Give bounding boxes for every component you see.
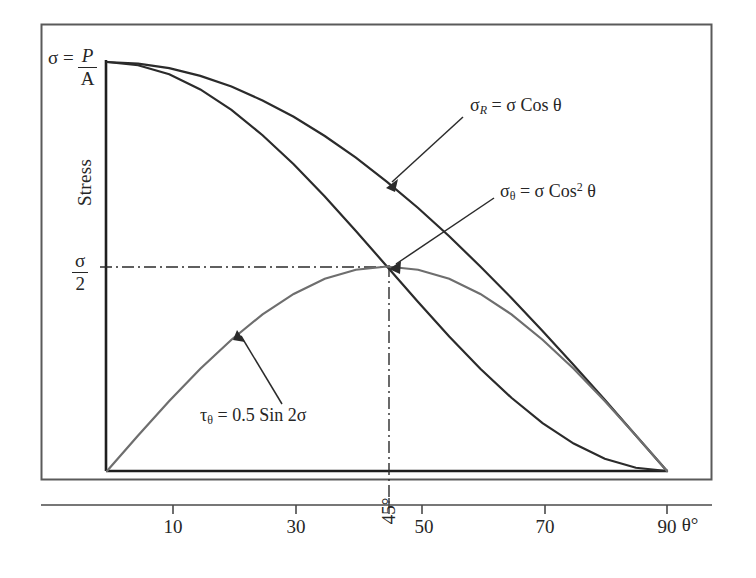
- annotation-superscript: 2: [577, 180, 583, 194]
- x-axis-title: θ°: [682, 514, 699, 536]
- p-over-a-fraction: P A: [78, 46, 98, 89]
- annotation-theta: θ: [587, 181, 596, 201]
- x-tick-label-70: 70: [536, 516, 555, 538]
- annotation-subscript: θ: [510, 189, 516, 203]
- figure-container: σ = P A σ 2 Stress σR = σ Cos θ σθ = σ C…: [0, 0, 756, 578]
- curve-tau-theta: [107, 267, 667, 472]
- annotation-symbol: σ: [470, 95, 480, 115]
- stress-vs-angle-plot: [0, 0, 756, 578]
- annotation-tau-theta: τθ = 0.5 Sin 2σ: [200, 406, 306, 426]
- fraction-denominator: A: [78, 69, 98, 89]
- x-tick-label-90: 90: [658, 516, 677, 538]
- equals-symbol: =: [63, 47, 74, 68]
- annotation-expression: = σ Cos: [520, 181, 577, 201]
- x-ruler-ticks: [173, 498, 667, 514]
- fraction-numerator: P: [79, 46, 97, 66]
- y-axis-title: Stress: [75, 93, 94, 273]
- y-axis-top-label: σ = P A: [48, 46, 97, 89]
- x-tick-label-45: 45°: [378, 498, 400, 525]
- annotation-subscript: R: [480, 103, 487, 117]
- fraction-denominator: 2: [72, 274, 88, 294]
- sigma-symbol: σ: [48, 47, 58, 68]
- annotation-subscript: θ: [207, 413, 213, 427]
- annotation-expression: = 0.5 Sin 2σ: [217, 405, 306, 425]
- annotation-sigma-r: σR = σ Cos θ: [470, 96, 562, 116]
- x-tick-label-30: 30: [287, 516, 306, 538]
- annotation-sigma-theta: σθ = σ Cos2 θ: [500, 181, 596, 202]
- x-tick-label-10: 10: [164, 516, 183, 538]
- outer-frame: [42, 25, 712, 480]
- leader-sigma-theta: [389, 198, 494, 274]
- annotation-expression: = σ Cos θ: [492, 95, 562, 115]
- annotation-symbol: σ: [500, 181, 510, 201]
- x-tick-label-50: 50: [415, 516, 434, 538]
- leader-tau-theta: [233, 330, 282, 404]
- leader-sigma-r: [386, 117, 463, 192]
